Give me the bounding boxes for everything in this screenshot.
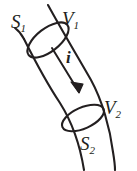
label-v2-subscript: 2 <box>116 108 122 120</box>
tube-left-wall <box>24 39 84 170</box>
label-v1: V1 <box>62 9 79 31</box>
figure-container: S1 V1 V2 S2 i <box>0 0 137 171</box>
label-s1-base: S <box>11 11 21 32</box>
label-v1-subscript: 1 <box>74 19 80 31</box>
label-v2-base: V <box>104 97 116 118</box>
label-v1-base: V <box>62 8 74 29</box>
label-s1-subscript: 1 <box>21 22 27 34</box>
label-v2: V2 <box>104 98 121 120</box>
label-s2-base: S <box>80 133 90 154</box>
label-s2-subscript: 2 <box>90 144 96 156</box>
tube-right-wall-lower <box>113 152 115 170</box>
cross-section-lower <box>58 99 108 136</box>
label-current-i: i <box>66 49 71 66</box>
flow-arrow-head <box>71 82 83 93</box>
label-current-i-base: i <box>66 48 71 67</box>
label-s2: S2 <box>80 134 95 156</box>
label-s1: S1 <box>11 12 26 34</box>
